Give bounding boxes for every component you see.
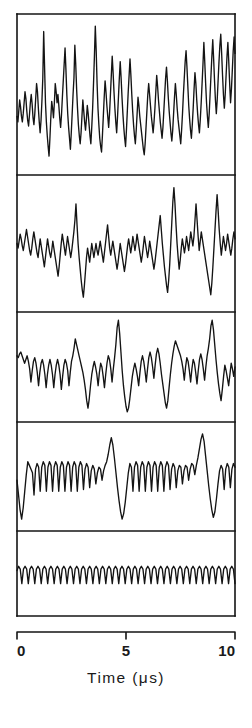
x-tick-label-5: 5 (122, 642, 130, 659)
x-tick-label-0: 0 (17, 642, 25, 659)
trace-panel-1-noisy-broadband (17, 26, 235, 156)
x-axis-label: Time (μs) (87, 669, 165, 686)
trace-panel-5-regular-comb (17, 566, 235, 583)
trace-panel-2-noisy-with-spikes (17, 188, 235, 297)
figure-container: 0510 Time (μs) (0, 0, 252, 728)
x-tick-label-10: 10 (218, 642, 235, 659)
panel-frames-group (17, 14, 235, 616)
panel-traces-group (17, 26, 235, 584)
axis-tick-labels: 0510 (17, 642, 235, 659)
x-axis: 0510 Time (μs) (17, 632, 235, 686)
axis-line (17, 632, 235, 639)
trace-panel-3-semi-periodic (17, 320, 235, 412)
trace-panel-4-comb-with-transients (17, 434, 235, 519)
waveform-figure: 0510 Time (μs) (0, 0, 252, 728)
